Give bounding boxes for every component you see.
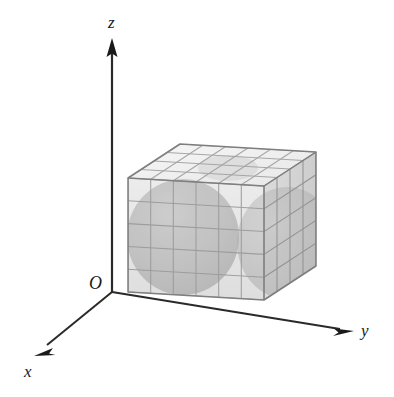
figure-container: z y x O — [0, 0, 394, 397]
z-axis-label: z — [108, 14, 115, 31]
left-inscribed-sphere — [127, 179, 239, 295]
x-axis-arrowhead — [34, 348, 56, 356]
right-inscribed-sphere — [237, 187, 337, 299]
z-axis — [107, 38, 118, 292]
figure-canvas — [0, 0, 394, 397]
y-axis-label: y — [361, 322, 369, 339]
gridded-box — [127, 144, 337, 300]
x-axis-label: x — [24, 363, 32, 380]
x-axis — [34, 292, 112, 356]
y-axis-arrowhead — [333, 329, 354, 337]
origin-label: O — [89, 274, 102, 292]
